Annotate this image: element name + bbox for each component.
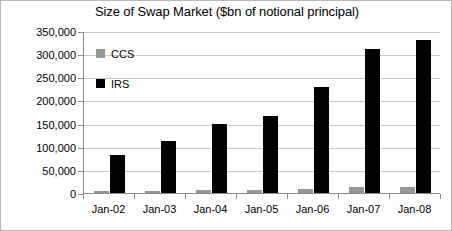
bar-ccs-jan-04 <box>196 190 211 193</box>
y-axis-tick-label: 350,000 <box>6 26 76 38</box>
bar-ccs-jan-05 <box>247 190 262 193</box>
bar-irs-jan-08 <box>416 40 431 193</box>
bar-ccs-jan-07 <box>349 187 364 193</box>
y-axis-tick-label: 150,000 <box>6 119 76 131</box>
x-axis-tick-mark <box>83 194 84 199</box>
legend-swatch-icon <box>96 49 105 58</box>
y-axis-tick-mark <box>78 148 83 149</box>
legend-entry-ccs[interactable]: CCS <box>96 45 134 62</box>
bar-irs-jan-06 <box>314 87 329 193</box>
chart-title: Size of Swap Market ($bn of notional pri… <box>1 4 452 19</box>
legend-entry-irs[interactable]: IRS <box>96 75 134 92</box>
x-axis-tick-label: Jan-06 <box>296 203 330 215</box>
bar-group <box>186 32 237 193</box>
x-axis-tick-label: Jan-08 <box>398 203 432 215</box>
y-axis-tick-mark <box>78 32 83 33</box>
bar-group <box>288 32 339 193</box>
chart-legend: CCSIRS <box>96 45 134 105</box>
y-axis-tick-label: 250,000 <box>6 72 76 84</box>
y-axis-tick-mark <box>78 78 83 79</box>
x-axis-tick-mark <box>185 194 186 199</box>
bar-ccs-jan-08 <box>400 187 415 193</box>
bar-group <box>135 32 186 193</box>
x-axis-tick-label: Jan-04 <box>194 203 228 215</box>
x-axis-tick-label: Jan-05 <box>245 203 279 215</box>
x-axis-tick-label: Jan-03 <box>143 203 177 215</box>
bar-group <box>390 32 441 193</box>
y-axis-tick-mark <box>78 101 83 102</box>
bar-ccs-jan-03 <box>145 191 160 193</box>
y-axis-tick-label: 200,000 <box>6 95 76 107</box>
bar-ccs-jan-02 <box>94 191 109 193</box>
bar-irs-jan-03 <box>161 141 176 193</box>
x-axis-tick-mark <box>338 194 339 199</box>
chart-container: Size of Swap Market ($bn of notional pri… <box>0 0 452 231</box>
x-axis-tick-label: Jan-02 <box>92 203 126 215</box>
x-axis-tick-label: Jan-07 <box>347 203 381 215</box>
x-axis-tick-mark <box>134 194 135 199</box>
bar-irs-jan-04 <box>212 124 227 193</box>
y-axis-tick-mark <box>78 55 83 56</box>
x-axis-tick-mark <box>389 194 390 199</box>
bar-group <box>339 32 390 193</box>
bar-irs-jan-05 <box>263 116 278 193</box>
y-axis-tick-label: 50,000 <box>6 165 76 177</box>
legend-swatch-icon <box>96 79 105 88</box>
y-axis-tick-label: 0 <box>6 188 76 200</box>
bar-ccs-jan-06 <box>298 189 313 193</box>
y-axis-tick-mark <box>78 171 83 172</box>
x-axis-tick-mark <box>440 194 441 199</box>
legend-label: CCS <box>111 48 134 60</box>
legend-label: IRS <box>111 78 129 90</box>
bar-irs-jan-07 <box>365 49 380 193</box>
bar-group <box>237 32 288 193</box>
y-axis-tick-mark <box>78 125 83 126</box>
bar-irs-jan-02 <box>110 155 125 193</box>
y-axis-tick-label: 300,000 <box>6 49 76 61</box>
plot-area <box>83 32 440 194</box>
x-axis-tick-mark <box>287 194 288 199</box>
y-axis-tick-label: 100,000 <box>6 142 76 154</box>
x-axis-tick-mark <box>236 194 237 199</box>
